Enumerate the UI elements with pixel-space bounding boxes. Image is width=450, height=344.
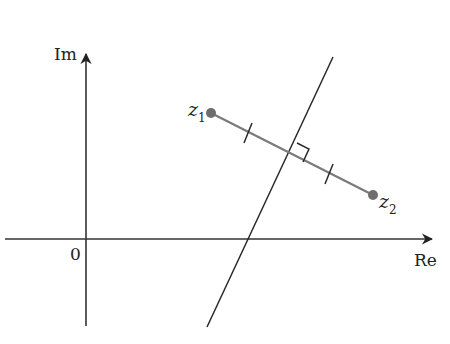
real-axis-label: Re: [414, 250, 437, 270]
point-z1: [206, 108, 216, 118]
imaginary-axis-label: Im: [54, 44, 77, 64]
label-z1: z 1: [187, 98, 206, 125]
origin-label: 0: [70, 244, 81, 264]
point-z2: [368, 190, 378, 200]
label-z1-subscript: 1: [198, 111, 206, 125]
segment-z1-z2: [211, 113, 373, 195]
complex-plane-diagram: Im Re 0 z 1 z 2: [0, 0, 450, 344]
label-z2: z 2: [378, 190, 397, 217]
label-z2-subscript: 2: [389, 203, 397, 217]
perpendicular-bisector: [207, 57, 333, 327]
